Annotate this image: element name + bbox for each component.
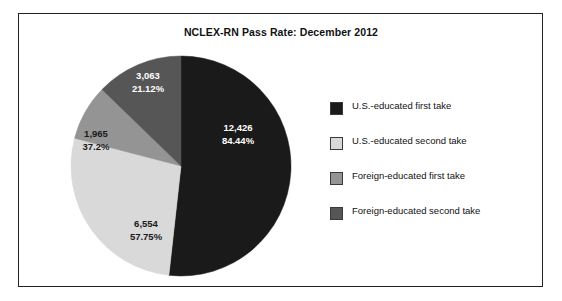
figure-canvas: NCLEX-RN Pass Rate: December 2012 12,426… xyxy=(0,0,562,301)
slice-label-us-first-take: 12,426 84.44% xyxy=(198,122,278,147)
legend-label: U.S.-educated first take xyxy=(352,100,451,111)
slice-label-foreign-first-take: 1,965 37.2% xyxy=(56,128,136,153)
legend-item-us-first-take: U.S.-educated first take xyxy=(330,100,530,135)
slice-value: 3,063 xyxy=(108,70,188,83)
legend-item-us-second-take: U.S.-educated second take xyxy=(330,135,530,170)
legend-item-foreign-second-take: Foreign-educated second take xyxy=(330,205,530,240)
slice-percent: 37.2% xyxy=(56,141,136,154)
slice-label-foreign-second-take: 3,063 21.12% xyxy=(108,70,188,95)
legend-swatch-icon xyxy=(330,102,343,115)
slice-value: 6,554 xyxy=(106,218,186,231)
slice-value: 12,426 xyxy=(198,122,278,135)
slice-label-us-second-take: 6,554 57.75% xyxy=(106,218,186,243)
chart-legend: U.S.-educated first take U.S.-educated s… xyxy=(330,100,530,240)
chart-title: NCLEX-RN Pass Rate: December 2012 xyxy=(0,26,562,38)
legend-label: U.S.-educated second take xyxy=(352,135,467,146)
legend-swatch-icon xyxy=(330,207,343,220)
slice-percent: 57.75% xyxy=(106,231,186,244)
slice-value: 1,965 xyxy=(56,128,136,141)
legend-swatch-icon xyxy=(330,172,343,185)
legend-label: Foreign-educated first take xyxy=(352,170,465,181)
slice-percent: 84.44% xyxy=(198,135,278,148)
legend-swatch-icon xyxy=(330,137,343,150)
slice-percent: 21.12% xyxy=(108,83,188,96)
legend-item-foreign-first-take: Foreign-educated first take xyxy=(330,170,530,205)
legend-label: Foreign-educated second take xyxy=(352,205,480,216)
